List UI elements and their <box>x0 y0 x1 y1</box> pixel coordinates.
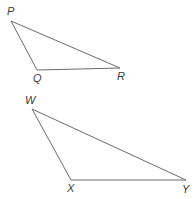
vertex-label-p: P <box>7 6 14 17</box>
vertex-label-r: R <box>117 71 125 82</box>
vertex-label-w: W <box>25 95 35 106</box>
vertex-label-x: X <box>67 183 74 194</box>
geometry-figure: P Q R W X Y <box>0 0 195 199</box>
vertex-label-y: Y <box>182 184 189 195</box>
vertex-label-q: Q <box>33 73 42 84</box>
